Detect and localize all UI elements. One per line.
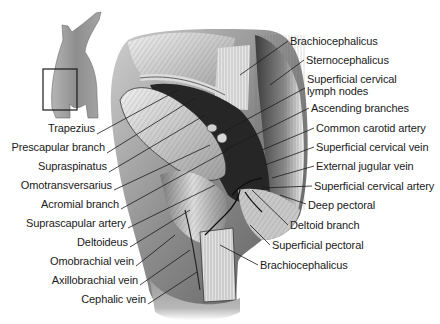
dog-silhouette-icon [52,12,101,118]
label-ascending-branches: Ascending branches [311,102,409,114]
label-supraspinatus: Supraspinatus [38,160,107,172]
label-superficial-cervical-lymph-nodes-line1: Superficial cervical [307,73,397,85]
label-brachiocephalicus-bottom: Brachiocephalicus [260,259,348,271]
label-superficial-cervical-vein: Superficial cervical vein [316,141,428,153]
label-deep-pectoral: Deep pectoral [308,199,375,211]
label-acromial-branch: Acromial branch [41,198,119,210]
label-deltoid-branch: Deltoid branch [290,219,360,231]
label-cephalic-vein: Cephalic vein [81,293,146,305]
label-axillobrachial-vein: Axillobrachial vein [52,274,138,286]
label-sternocephalicus: Sternocephalicus [306,54,389,66]
label-external-jugular-vein: External jugular vein [316,160,414,172]
label-superficial-pectoral: Superficial pectoral [272,239,364,251]
label-deltoideus: Deltoideus [77,236,128,248]
label-suprascapular-artery: Suprascapular artery [26,217,126,229]
label-trapezius: Trapezius [48,122,95,134]
shoulder-region-drawing [111,29,308,320]
label-superficial-cervical-lymph-nodes-line2: lymph nodes [307,85,368,97]
label-common-carotid-artery: Common carotid artery [316,122,426,134]
label-omobrachial-vein: Omobrachial vein [50,255,134,267]
anatomy-figure: Trapezius Prescapular branch Supraspinat… [0,0,440,324]
label-superficial-cervical-artery: Superficial cervical artery [314,180,434,192]
label-omotransversarius: Omotransversarius [21,179,112,191]
label-brachiocephalicus-top: Brachiocephalicus [290,35,378,47]
label-prescapular-branch: Prescapular branch [11,141,105,153]
